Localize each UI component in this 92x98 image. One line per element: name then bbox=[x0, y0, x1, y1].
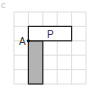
grid-lines bbox=[14, 12, 86, 84]
point-a bbox=[27, 39, 30, 42]
grid-diagram: P A bbox=[0, 0, 92, 98]
rectangle-p-label: P bbox=[47, 29, 54, 40]
shaded-rectangle bbox=[28, 41, 42, 84]
point-a-label: A bbox=[19, 36, 26, 47]
